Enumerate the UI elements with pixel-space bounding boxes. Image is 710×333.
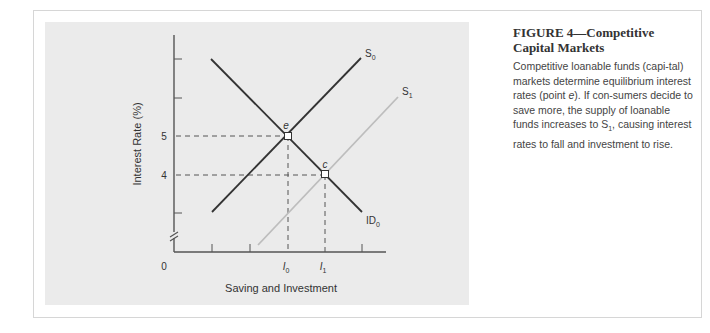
figure-caption: FIGURE 4—CompetitiveCapital Markets Comp… bbox=[513, 25, 693, 151]
s0-label: S0 bbox=[365, 48, 376, 61]
x-ticks bbox=[212, 244, 362, 252]
y-tick-label-4: 4 bbox=[161, 170, 167, 181]
figure-title: FIGURE 4—CompetitiveCapital Markets bbox=[513, 25, 693, 55]
point-c-label: c bbox=[323, 159, 328, 170]
origin-label: 0 bbox=[161, 261, 167, 272]
point-e-marker bbox=[285, 133, 292, 140]
x-axis-label: Saving and Investment bbox=[225, 282, 337, 294]
point-e-label: e bbox=[283, 120, 289, 131]
x-tick-label-i1: I1 bbox=[320, 261, 327, 274]
guide-lines bbox=[176, 136, 325, 252]
y-axis-label: Interest Rate (%) bbox=[131, 102, 143, 185]
id0-label: ID0 bbox=[366, 215, 380, 228]
s1-label: S1 bbox=[402, 86, 413, 99]
figure-description: Competitive loanable funds (capi-tal) ma… bbox=[513, 59, 693, 151]
x-tick-label-i0: I0 bbox=[283, 261, 290, 274]
point-c-marker bbox=[322, 171, 329, 178]
y-tick-label-5: 5 bbox=[161, 131, 167, 142]
